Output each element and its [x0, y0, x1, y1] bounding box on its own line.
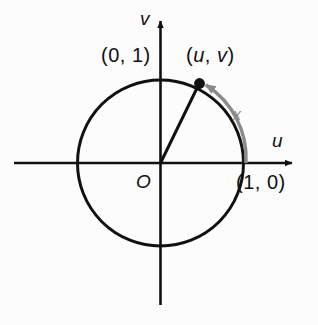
coordinate-separator: , [205, 44, 217, 66]
label-u-axis: u [272, 131, 283, 150]
label-arc-length-x: x [233, 107, 241, 123]
coordinate-u: u [193, 44, 205, 66]
radius-segment [161, 84, 200, 163]
label-v-axis: v [140, 9, 150, 28]
unit-circle-diagram [0, 0, 318, 325]
label-point-u-v: (u, v) [186, 45, 235, 65]
label-point-one-zero: (1, 0) [236, 172, 286, 192]
coordinate-v: v [217, 44, 228, 66]
paren-close: ) [227, 44, 234, 66]
unit-circle-figure: (0, 1) (u, v) (1, 0) u v O x [0, 0, 318, 325]
label-point-zero-one: (0, 1) [101, 45, 151, 65]
label-origin: O [136, 172, 151, 191]
terminal-point-dot [194, 78, 205, 89]
